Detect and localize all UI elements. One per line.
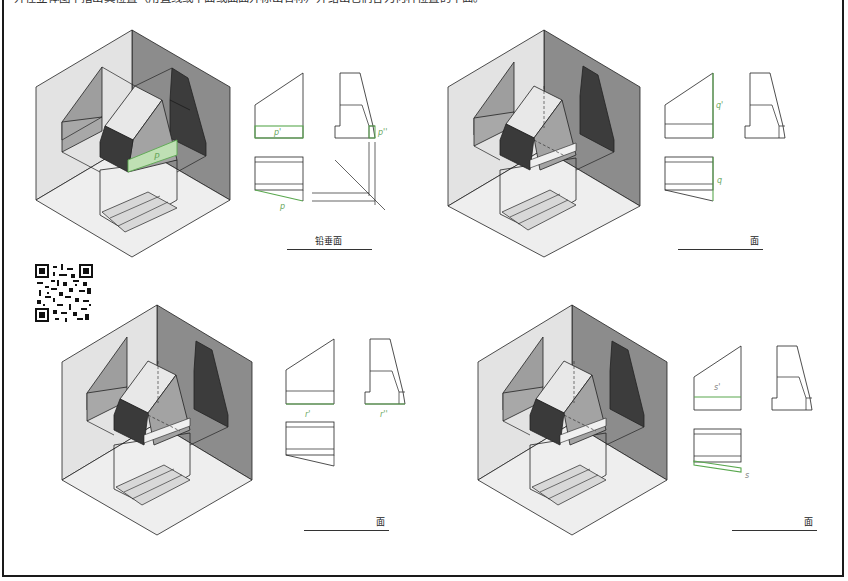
answer-text-s: 面: [804, 515, 813, 528]
answer-text-r: 面: [376, 515, 385, 528]
front-label-p: p': [273, 128, 281, 137]
answer-blank-p[interactable]: 铅垂面: [287, 236, 372, 250]
panel-p: P p' p'' p 铅垂面: [0, 0, 430, 260]
answer-underline-s: [732, 530, 817, 531]
answer-blank-s[interactable]: 面: [732, 517, 817, 531]
panel-q: q' q 面: [410, 0, 848, 260]
answer-blank-r[interactable]: 面: [304, 517, 389, 531]
top-label-p: p: [279, 202, 285, 211]
front-label-r: r': [305, 410, 311, 419]
answer-underline-p: [287, 249, 372, 250]
panel-r: r' r'' 面: [20, 295, 440, 555]
answer-underline-q: [678, 249, 763, 250]
orthographic-views-s: s' s: [450, 295, 848, 555]
top-label-q: q: [717, 176, 722, 185]
front-label-q: q': [716, 101, 723, 110]
answer-text-p: 铅垂面: [315, 234, 342, 247]
orthographic-views-p: p' p'' p: [0, 0, 430, 260]
answer-text-q: 面: [750, 234, 759, 247]
answer-blank-q[interactable]: 面: [678, 236, 763, 250]
orthographic-views-q: q' q: [410, 0, 848, 260]
top-label-s: s: [745, 471, 749, 480]
panel-s: s' s 面: [450, 295, 848, 555]
answer-underline-r: [304, 530, 389, 531]
side-label-p: p'': [377, 128, 387, 137]
side-label-r: r'': [380, 410, 388, 419]
front-label-s: s': [714, 383, 720, 392]
